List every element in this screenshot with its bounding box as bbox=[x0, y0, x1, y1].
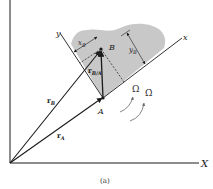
omega-dot-label: Ω̇ bbox=[145, 88, 152, 98]
point-B-label: B bbox=[108, 43, 115, 52]
y-axis-label: y bbox=[55, 29, 61, 38]
rB-label: rB bbox=[47, 96, 55, 106]
rA-vector bbox=[10, 98, 102, 163]
omega-label: Ω bbox=[132, 84, 139, 94]
point-B bbox=[99, 47, 102, 50]
rA-label: rA bbox=[57, 131, 65, 141]
omega-dot-arrow bbox=[130, 103, 144, 121]
point-A bbox=[101, 96, 104, 99]
X-axis-label: X bbox=[200, 158, 209, 169]
x-axis-label: x bbox=[183, 33, 188, 42]
omega-arrow bbox=[120, 97, 133, 112]
relative-motion-diagram: X x y xB yB A B rB rA rB/A Ω Ω̇ (a) bbox=[0, 0, 213, 189]
figure-caption: (a) bbox=[100, 177, 110, 185]
point-A-label: A bbox=[97, 107, 104, 116]
rB-vector bbox=[10, 51, 100, 163]
